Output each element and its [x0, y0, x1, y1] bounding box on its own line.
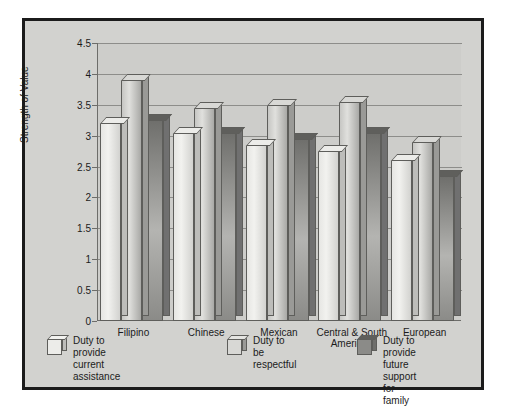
- legend-label: Duty to providecurrent assistance: [73, 335, 120, 383]
- bar: [246, 145, 267, 321]
- y-axis-tick-label: 0.5: [51, 285, 91, 296]
- legend-swatch-front: [47, 339, 62, 355]
- y-axis-tick-label: 0: [51, 316, 91, 327]
- chart-figure: Strength of Value 4.543.532.521.510.50 F…: [22, 18, 484, 390]
- bar-side-face: [339, 146, 346, 316]
- y-axis-tick-mark: [92, 136, 97, 137]
- legend-label-line: Duty to be respectful: [253, 335, 296, 371]
- legend-swatch-front: [227, 339, 242, 355]
- y-axis-tick-label: 2.5: [51, 161, 91, 172]
- bar-side-face: [121, 118, 128, 316]
- y-axis-tick-label: 3.5: [51, 99, 91, 110]
- y-axis-tick-mark: [92, 167, 97, 168]
- y-axis-tick-mark: [92, 43, 97, 44]
- y-axis-tick-mark: [92, 197, 97, 198]
- bar: [391, 160, 412, 321]
- y-axis-tick-label: 4: [51, 68, 91, 79]
- legend-label: Duty to be respectful: [253, 335, 296, 371]
- bar: [100, 123, 121, 321]
- bar-side-face: [454, 171, 461, 316]
- bar-side-face: [236, 128, 243, 316]
- bar-side-face: [288, 100, 295, 316]
- legend-label-line: support for family: [383, 371, 416, 407]
- bar-side-face: [163, 115, 170, 316]
- bar-side-face: [309, 134, 316, 316]
- y-axis-tick-mark: [92, 259, 97, 260]
- legend-label-line: current assistance: [73, 359, 120, 383]
- bar-side-face: [412, 155, 419, 316]
- bar: [318, 151, 339, 321]
- legend-label: Duty to provide futuresupport for family: [383, 335, 416, 407]
- legend-swatch-front: [357, 339, 372, 355]
- bar-side-face: [381, 128, 388, 316]
- y-axis-tick-mark: [92, 74, 97, 75]
- y-axis-tick-mark: [92, 290, 97, 291]
- bar-side-face: [433, 137, 440, 316]
- bar: [173, 133, 194, 321]
- legend-label-line: Duty to provide future: [383, 335, 416, 371]
- y-axis-title: Strength of Value: [19, 66, 30, 143]
- bar-front-face: [246, 145, 267, 321]
- bar-side-face: [360, 97, 367, 316]
- legend-swatch-icon: [47, 336, 65, 355]
- y-axis-tick-label: 2: [51, 192, 91, 203]
- y-axis-tick-label: 1.5: [51, 223, 91, 234]
- bar-front-face: [318, 151, 339, 321]
- gridline: [98, 74, 462, 75]
- legend-label-line: Duty to provide: [73, 335, 120, 359]
- legend-swatch-icon: [357, 336, 375, 355]
- y-axis-tick-label: 1: [51, 254, 91, 265]
- bar-front-face: [173, 133, 194, 321]
- chart-legend: Duty to providecurrent assistanceDuty to…: [37, 333, 473, 379]
- y-axis-tick-label: 3: [51, 130, 91, 141]
- legend-swatch-icon: [227, 336, 245, 355]
- y-axis-tick-mark: [92, 321, 97, 322]
- bar-front-face: [391, 160, 412, 321]
- y-axis-tick-mark: [92, 105, 97, 106]
- bar-front-face: [100, 123, 121, 321]
- gridline: [98, 43, 462, 44]
- bar-side-face: [142, 75, 149, 316]
- bar-side-face: [267, 140, 274, 316]
- y-axis-tick-label: 4.5: [51, 38, 91, 49]
- y-axis-tick-mark: [92, 228, 97, 229]
- bar-side-face: [215, 103, 222, 316]
- bar-side-face: [194, 128, 201, 316]
